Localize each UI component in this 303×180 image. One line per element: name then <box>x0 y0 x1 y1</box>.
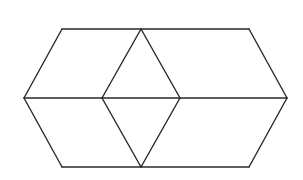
edge-FI <box>141 98 180 167</box>
geometric-figure <box>0 0 303 180</box>
edge-DA <box>24 29 62 98</box>
edge-BF <box>141 29 180 98</box>
edge-BE <box>102 29 141 98</box>
edge-CG <box>249 29 287 98</box>
edge-GJ <box>249 98 287 167</box>
edge-EI <box>102 98 141 167</box>
edge-HD <box>24 98 62 167</box>
figure-edges <box>24 29 287 167</box>
